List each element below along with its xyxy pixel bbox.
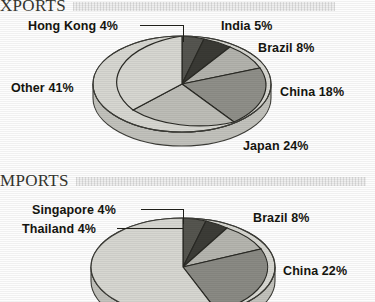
exports-label-china: China 18% bbox=[280, 85, 344, 99]
imports-label-china: China 22% bbox=[283, 264, 347, 278]
imports-header-rule bbox=[76, 177, 366, 186]
imports-label-singapore: Singapore 4% bbox=[32, 203, 116, 217]
imports-title: MPORTS bbox=[0, 171, 69, 191]
exports-leader-hong-kong-vertical bbox=[183, 25, 184, 42]
imports-label-brazil: Brazil 8% bbox=[253, 211, 309, 225]
imports-section-header: MPORTS bbox=[0, 171, 375, 191]
exports-section-header: XPORTS bbox=[0, 0, 375, 16]
imports-label-thailand: Thailand 4% bbox=[22, 222, 96, 236]
exports-label-india: India 5% bbox=[221, 19, 273, 33]
imports-leader-singapore-horizontal bbox=[141, 209, 184, 210]
imports-leader-thailand-horizontal bbox=[117, 228, 183, 229]
exports-label-brazil: Brazil 8% bbox=[258, 41, 314, 55]
scanned-page: XPORTS bbox=[0, 0, 375, 302]
exports-label-hong-kong: Hong Kong 4% bbox=[28, 19, 118, 33]
exports-label-other: Other 41% bbox=[11, 81, 74, 95]
imports-leader-singapore-vertical bbox=[183, 209, 184, 224]
exports-pie-svg bbox=[90, 24, 275, 149]
exports-header-rule bbox=[73, 2, 335, 11]
exports-label-japan: Japan 24% bbox=[243, 139, 309, 153]
exports-title: XPORTS bbox=[0, 0, 66, 16]
exports-leader-hong-kong-horizontal bbox=[140, 25, 184, 26]
exports-pie-chart bbox=[90, 24, 275, 149]
